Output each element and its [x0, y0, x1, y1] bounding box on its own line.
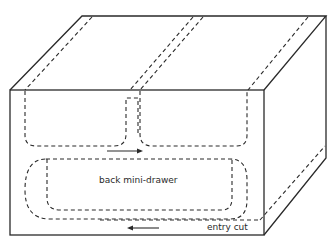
lower-arrow-left	[127, 226, 159, 231]
top-middle-tunnel-line-a	[130, 17, 193, 90]
box-top-face	[10, 16, 326, 90]
box-front-face	[10, 90, 264, 235]
top-left-tunnel-line	[25, 17, 92, 90]
box-right-face	[264, 16, 326, 235]
top-tunnel-lines	[25, 17, 308, 90]
box-outline	[10, 16, 326, 235]
label-back-mini-drawer: back mini-drawer	[99, 175, 178, 185]
entry-cut-diagonal	[260, 146, 325, 220]
right-upper-tunnel	[140, 91, 247, 146]
box-diagram	[0, 0, 335, 242]
label-entry-cut: entry cut	[207, 222, 248, 232]
top-middle-tunnel-line-b	[140, 17, 203, 90]
upper-arrow-right	[107, 149, 143, 154]
top-right-tunnel-line	[248, 17, 308, 90]
left-upper-tunnel	[25, 91, 138, 146]
